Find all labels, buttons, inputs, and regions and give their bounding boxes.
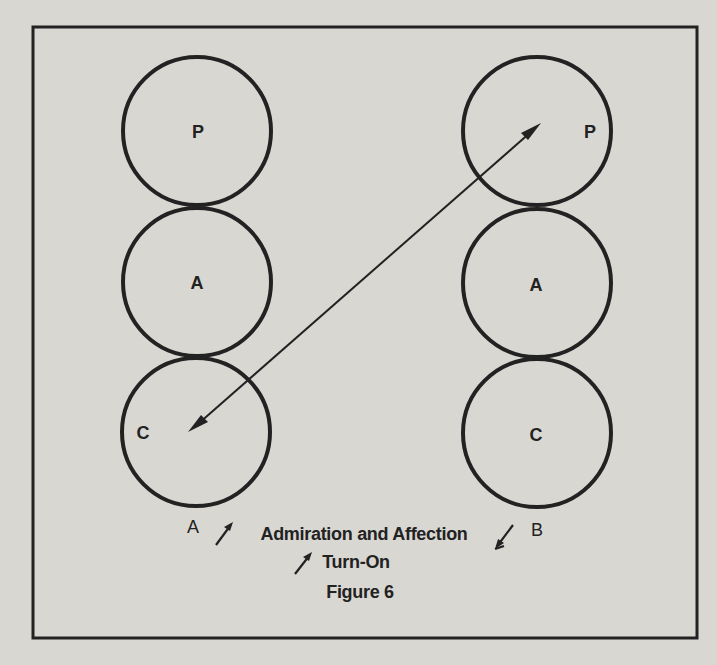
letter-b-adult: A — [530, 275, 543, 296]
figure-frame — [33, 27, 697, 638]
caption-line-turn-on: Turn-On — [322, 552, 390, 573]
letter-a-child: C — [137, 423, 150, 444]
up-right-arrow-icon — [216, 522, 233, 545]
letter-a-adult: A — [191, 273, 204, 294]
letter-b-parent: P — [584, 122, 596, 143]
figure-title: Figure 6 — [326, 582, 394, 603]
column-b-label: B — [531, 520, 543, 541]
caption-line-admiration: Admiration and Affection — [260, 524, 467, 545]
transaction-arrow — [188, 123, 541, 432]
column-a-label: A — [187, 517, 199, 538]
down-left-arrow-icon — [495, 525, 513, 549]
letter-a-parent: P — [192, 122, 204, 143]
up-right-arrow-icon — [295, 552, 312, 574]
letter-b-child: C — [530, 425, 543, 446]
